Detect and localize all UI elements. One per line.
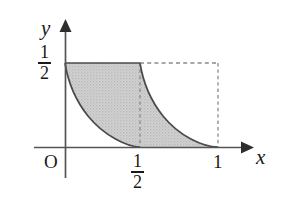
fraction-one-half: 1 2 xyxy=(131,152,144,192)
fraction-numerator: 1 xyxy=(38,43,51,61)
shaded-region-right xyxy=(140,63,218,147)
y-axis-label: y xyxy=(41,18,50,39)
fraction-numerator: 1 xyxy=(131,152,144,170)
shaded-region-left xyxy=(65,63,140,147)
origin-label: O xyxy=(44,152,58,171)
fraction-denominator: 2 xyxy=(131,173,144,191)
x-axis-label: x xyxy=(256,147,265,168)
x-tick-label-one: 1 xyxy=(213,152,223,171)
x-axis-arrow-icon xyxy=(241,142,254,154)
y-tick-label-one-half: 1 2 xyxy=(38,43,51,83)
fraction-denominator: 2 xyxy=(38,64,51,82)
figure-container: y x O 1 2 1 2 1 xyxy=(0,0,283,204)
x-tick-label-one-half: 1 2 xyxy=(131,152,144,192)
y-axis-arrow-icon xyxy=(60,19,72,32)
fraction-one-half: 1 2 xyxy=(38,43,51,83)
